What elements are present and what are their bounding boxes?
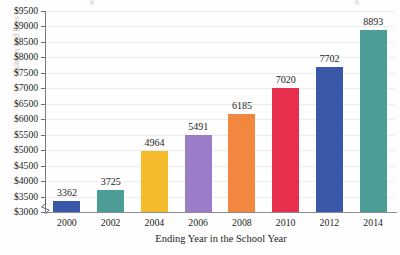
bar-value-label: 8893: [346, 17, 400, 27]
bar-rect: [141, 151, 168, 212]
bar-value-label: 4964: [127, 138, 181, 148]
bar-value-label: 3725: [84, 177, 138, 187]
bar: 7020: [272, 88, 299, 212]
bar: 8893: [360, 30, 387, 212]
y-axis-tick-label: $9500: [14, 6, 38, 16]
bar-rect: [228, 114, 255, 212]
gridline: [45, 26, 395, 27]
y-axis-tick-label: $6000: [14, 114, 38, 124]
gridline: [45, 42, 395, 43]
y-axis-tick-label: $3500: [14, 192, 38, 202]
bar: 6185: [228, 114, 255, 212]
x-axis-line: [45, 212, 397, 213]
bar: 3725: [97, 190, 124, 212]
y-axis-tick-label: $8000: [14, 52, 38, 62]
x-axis-title: Ending Year in the School Year: [45, 233, 397, 244]
bar-value-label: 3362: [40, 188, 94, 198]
gridline: [45, 11, 395, 12]
cropped-title-remnants: g g: [0, 0, 400, 5]
y-axis-tick-label: $3000: [14, 207, 38, 217]
bar-rect: [185, 135, 212, 212]
y-axis-tick-label: $9000: [14, 21, 38, 31]
bar: 3362: [53, 201, 80, 212]
bar: 5491: [185, 135, 212, 212]
y-axis-tick-label: $7500: [14, 68, 38, 78]
bar-value-label: 5491: [171, 122, 225, 132]
y-axis-tick-label: $4000: [14, 176, 38, 186]
y-axis-tick-label: $8500: [14, 37, 38, 47]
y-axis-tick-label: $5500: [14, 130, 38, 140]
y-axis-line: [45, 11, 46, 213]
bar-value-label: 7702: [302, 54, 356, 64]
bar-rect: [316, 67, 343, 212]
y-axis-tick-label: $5000: [14, 145, 38, 155]
x-axis-tick-label: 2014: [346, 217, 400, 228]
tuition-bar-chart: g g Tuition and Fees Ending Year in the …: [0, 0, 400, 255]
y-axis-tick-label: $4500: [14, 161, 38, 171]
bar-value-label: 6185: [215, 101, 269, 111]
bar-rect: [53, 201, 80, 212]
bar: 4964: [141, 151, 168, 212]
bar-rect: [272, 88, 299, 212]
bar-rect: [360, 30, 387, 212]
bar-value-label: 7020: [259, 75, 313, 85]
y-axis-break-icon: [40, 198, 52, 215]
bar: 7702: [316, 67, 343, 212]
y-axis-tick-label: $7000: [14, 83, 38, 93]
y-axis-tick-label: $6500: [14, 99, 38, 109]
bar-rect: [97, 190, 124, 212]
